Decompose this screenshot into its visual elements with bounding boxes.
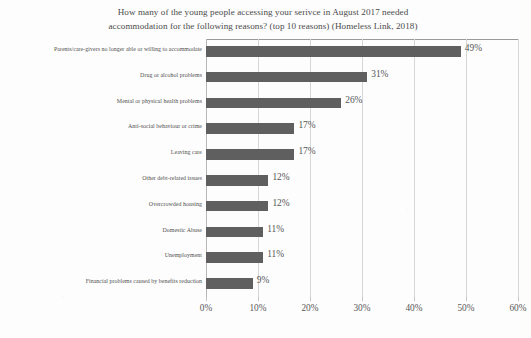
bar-row: 17% [206, 142, 518, 167]
gridline-60% [518, 39, 519, 297]
category-label: Domestic Abuse [10, 227, 206, 233]
bar-value-label: 31% [371, 69, 388, 79]
bar-row: 11% [206, 220, 518, 245]
bar [206, 46, 461, 57]
bar [206, 98, 341, 109]
bar-value-label: 12% [272, 198, 289, 208]
plot-area: 0%10%20%30%40%50%60%49%31%26%17%17%12%12… [206, 39, 518, 297]
chart-title-line-1: How many of the young people accessing y… [118, 7, 409, 17]
x-tick-mark [206, 297, 207, 301]
bar-value-label: 26% [345, 95, 362, 105]
x-tick-label: 20% [290, 303, 330, 313]
bar [206, 72, 367, 83]
bar-row: 9% [206, 271, 518, 296]
category-label: Parents/care-givers no longer able or wi… [10, 46, 206, 52]
x-tick-label: 30% [342, 303, 382, 313]
bar-value-label: 9% [257, 275, 270, 285]
bar-row: 31% [206, 65, 518, 90]
chart-title: How many of the young people accessing y… [34, 6, 492, 33]
x-tick-label: 60% [498, 303, 531, 313]
category-axis-labels: Parents/care-givers no longer able or wi… [0, 39, 206, 297]
chart-title-line-2: accommodation for the following reasons?… [108, 21, 417, 31]
bar [206, 149, 294, 160]
x-tick-label: 50% [446, 303, 486, 313]
x-tick-mark [518, 297, 519, 301]
x-tick-mark [466, 297, 467, 301]
bar-value-label: 49% [465, 43, 482, 53]
x-tick-mark [310, 297, 311, 301]
x-tick-label: 10% [238, 303, 278, 313]
x-tick-mark [362, 297, 363, 301]
bar [206, 278, 253, 289]
category-label: Mental or physical health problems [10, 98, 206, 104]
category-label: Overcrowded housing [10, 201, 206, 207]
bar-row: 12% [206, 194, 518, 219]
bar [206, 175, 268, 186]
bar-value-label: 17% [298, 146, 315, 156]
bar-value-label: 17% [298, 120, 315, 130]
category-label: Other debt-related issues [10, 175, 206, 181]
bar-value-label: 12% [272, 172, 289, 182]
bar [206, 201, 268, 212]
category-label: Leaving care [10, 149, 206, 155]
bar [206, 123, 294, 134]
category-label: Drug or alcohol problems [10, 72, 206, 78]
bar-row: 26% [206, 91, 518, 116]
x-tick-label: 0% [186, 303, 226, 313]
bar-row: 17% [206, 116, 518, 141]
bar-row: 12% [206, 168, 518, 193]
category-label: Unemployment [10, 252, 206, 258]
bar-value-label: 11% [267, 224, 284, 234]
category-label: Financial problems caused by benefits re… [10, 278, 206, 284]
bar-value-label: 11% [267, 249, 284, 259]
x-tick-mark [258, 297, 259, 301]
x-tick-label: 40% [394, 303, 434, 313]
bar [206, 227, 263, 238]
bar-row: 49% [206, 39, 518, 64]
bar [206, 252, 263, 263]
category-label: Anti-social behaviour or crime [10, 123, 206, 129]
bar-row: 11% [206, 245, 518, 270]
x-tick-mark [414, 297, 415, 301]
